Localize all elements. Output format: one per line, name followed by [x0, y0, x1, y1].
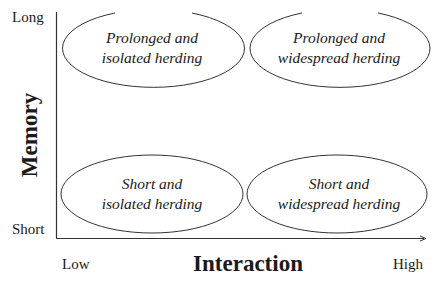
x-axis-high-label: High — [393, 257, 423, 272]
quadrant-label-line2: widespread herding — [278, 48, 400, 68]
quadrant-label-bottom-left: Short and isolated herding — [102, 174, 203, 214]
quadrant-label-line2: isolated herding — [102, 194, 203, 214]
quadrant-label-line2: widespread herding — [278, 194, 400, 214]
quadrant-label-top-right: Prolonged and widespread herding — [278, 28, 400, 68]
y-axis-high-label: Long — [12, 10, 44, 25]
y-axis-low-label: Short — [12, 222, 45, 237]
x-axis-title: Interaction — [193, 252, 303, 275]
quadrant-label-line1: Short and — [278, 174, 400, 194]
y-axis-title: Memory — [18, 93, 41, 177]
quadrant-label-line1: Prolonged and — [278, 28, 400, 48]
quadrant-label-line2: isolated herding — [102, 48, 203, 68]
quadrant-label-top-left: Prolonged and isolated herding — [102, 28, 203, 68]
quadrant-label-bottom-right: Short and widespread herding — [278, 174, 400, 214]
quadrant-label-line1: Prolonged and — [102, 28, 203, 48]
quadrant-diagram: Long Short Memory Low High Interaction P… — [0, 0, 438, 283]
quadrant-label-line1: Short and — [102, 174, 203, 194]
x-axis-low-label: Low — [62, 257, 90, 272]
